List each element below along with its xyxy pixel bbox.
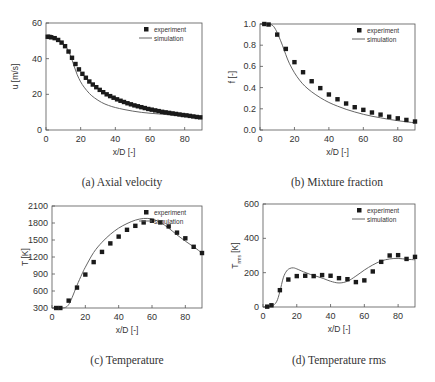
- y-tick-label: 0: [254, 302, 259, 312]
- experiment-marker: [379, 260, 383, 264]
- experiment-marker: [320, 273, 324, 277]
- experiment-marker: [295, 274, 299, 278]
- experiment-marker: [362, 278, 366, 282]
- caption-c: (c) Temperature: [27, 354, 227, 366]
- experiment-marker: [413, 255, 417, 259]
- experiment-marker: [265, 304, 269, 308]
- simulation-line: [263, 258, 415, 307]
- y-axis-label: Trms [K]: [230, 242, 242, 268]
- legend-experiment-label: experiment: [367, 207, 399, 215]
- y-tick-label: 600: [244, 199, 259, 209]
- experiment-marker: [311, 274, 315, 278]
- legend-simulation-label: simulation: [367, 216, 397, 223]
- x-axis-label: x/D [-]: [328, 324, 351, 334]
- plot-area-d: 0204060800200400600x/D [-]Trms [K]experi…: [230, 199, 417, 334]
- caption-b: (b) Mixture fraction: [237, 176, 435, 188]
- x-tick-label: 80: [393, 311, 403, 321]
- experiment-marker: [404, 257, 408, 261]
- x-tick-label: 20: [292, 311, 302, 321]
- experiment-marker: [269, 303, 273, 307]
- experiment-marker: [371, 269, 375, 273]
- x-tick-label: 60: [359, 311, 369, 321]
- experiment-marker: [345, 277, 349, 281]
- experiment-marker: [286, 277, 290, 281]
- experiment-marker: [303, 274, 307, 278]
- experiment-marker: [278, 288, 282, 292]
- caption-a: (a) Axial velocity: [22, 176, 222, 188]
- experiment-marker: [387, 253, 391, 257]
- experiment-marker: [396, 253, 400, 257]
- y-tick-label: 400: [244, 233, 259, 243]
- legend-experiment-marker-icon: [357, 208, 362, 213]
- chart-temperature-rms: 0204060800200400600x/D [-]Trms [K]experi…: [0, 0, 435, 382]
- y-tick-label: 200: [244, 268, 259, 278]
- caption-d: (d) Temperature rms: [239, 354, 435, 366]
- x-tick-label: 0: [260, 311, 265, 321]
- experiment-marker: [354, 280, 358, 284]
- experiment-marker: [337, 276, 341, 280]
- experiment-marker: [328, 274, 332, 278]
- x-tick-label: 40: [326, 311, 336, 321]
